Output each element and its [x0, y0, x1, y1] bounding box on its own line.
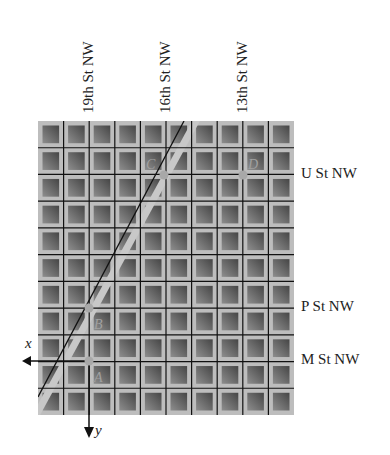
city-block [247, 393, 264, 411]
city-grid: CDBA [22, 108, 294, 438]
city-block [222, 393, 239, 411]
city-block [119, 366, 136, 384]
city-block [145, 313, 162, 331]
point-label-c: C [146, 157, 156, 172]
city-block [43, 232, 60, 250]
city-block [196, 152, 213, 170]
city-block [273, 366, 290, 384]
city-block [222, 126, 239, 144]
city-block [43, 179, 60, 197]
x-axis-arrow-icon [22, 356, 31, 366]
city-block [196, 313, 213, 331]
city-block [68, 152, 85, 170]
city-block [222, 313, 239, 331]
city-block [273, 179, 290, 197]
city-block [145, 393, 162, 411]
city-block [222, 152, 239, 170]
city-block [196, 286, 213, 304]
point-label-d: D [247, 157, 258, 172]
street-grid-map: CDBA [0, 0, 390, 455]
city-block [119, 126, 136, 144]
street-label-horizontal: M St NW [301, 351, 359, 368]
city-block [68, 206, 85, 224]
city-block [247, 179, 264, 197]
city-block [273, 339, 290, 357]
street-label-vertical: 13th St NW [234, 41, 251, 113]
point-a [85, 357, 94, 366]
city-block [171, 393, 188, 411]
city-block [119, 339, 136, 357]
city-block [119, 286, 136, 304]
city-block [43, 126, 60, 144]
city-block [119, 152, 136, 170]
city-block [119, 179, 136, 197]
city-block [43, 206, 60, 224]
city-block [222, 339, 239, 357]
city-block [196, 179, 213, 197]
street-label-vertical: 16th St NW [157, 41, 174, 113]
city-block [145, 259, 162, 277]
city-block [68, 366, 85, 384]
city-block [196, 366, 213, 384]
city-block [222, 206, 239, 224]
city-block [222, 286, 239, 304]
city-block [196, 206, 213, 224]
street-label-horizontal: P St NW [301, 298, 354, 315]
city-block [273, 259, 290, 277]
city-block [247, 313, 264, 331]
city-block [43, 313, 60, 331]
city-block [171, 179, 188, 197]
city-block [171, 259, 188, 277]
point-c [160, 171, 169, 180]
city-block [94, 206, 111, 224]
city-block [273, 286, 290, 304]
point-label-b: B [94, 317, 103, 332]
city-block [171, 232, 188, 250]
city-block [145, 126, 162, 144]
city-block [273, 313, 290, 331]
city-block [222, 366, 239, 384]
city-block [273, 152, 290, 170]
street-label-horizontal: U St NW [301, 165, 357, 182]
city-block [247, 259, 264, 277]
city-block [68, 232, 85, 250]
city-block [68, 393, 85, 411]
point-d [239, 171, 248, 180]
city-block [171, 366, 188, 384]
city-block [247, 286, 264, 304]
city-block [273, 393, 290, 411]
city-block [273, 126, 290, 144]
city-block [94, 179, 111, 197]
city-block [145, 339, 162, 357]
city-block [171, 339, 188, 357]
city-block [171, 286, 188, 304]
city-block [43, 259, 60, 277]
city-block [119, 313, 136, 331]
city-block [68, 259, 85, 277]
point-b [85, 304, 94, 313]
city-block [273, 232, 290, 250]
city-block [94, 126, 111, 144]
city-block [94, 152, 111, 170]
city-block [43, 286, 60, 304]
city-block [222, 232, 239, 250]
city-block [119, 206, 136, 224]
city-block [247, 206, 264, 224]
city-block [196, 339, 213, 357]
city-block [145, 286, 162, 304]
city-block [68, 286, 85, 304]
city-block [196, 126, 213, 144]
city-block [222, 259, 239, 277]
y-axis-label: y [95, 422, 102, 439]
city-block [171, 313, 188, 331]
city-block [68, 126, 85, 144]
city-block [247, 339, 264, 357]
point-label-a: A [93, 370, 103, 385]
city-block [94, 393, 111, 411]
city-block [94, 339, 111, 357]
city-block [119, 393, 136, 411]
y-axis-arrow-icon [84, 427, 94, 438]
city-block [68, 179, 85, 197]
city-block [222, 179, 239, 197]
city-block [145, 232, 162, 250]
